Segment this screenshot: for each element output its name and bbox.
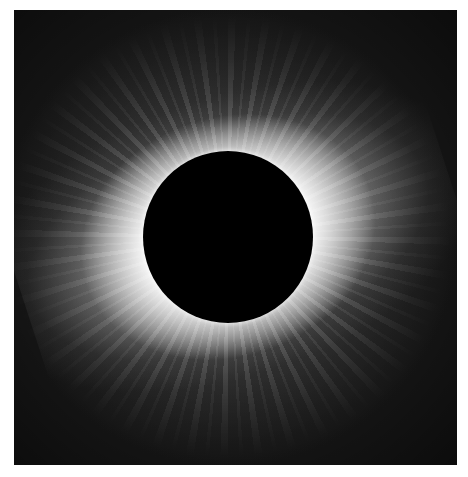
moon-disc — [143, 151, 313, 323]
eclipse-photo — [14, 10, 457, 465]
